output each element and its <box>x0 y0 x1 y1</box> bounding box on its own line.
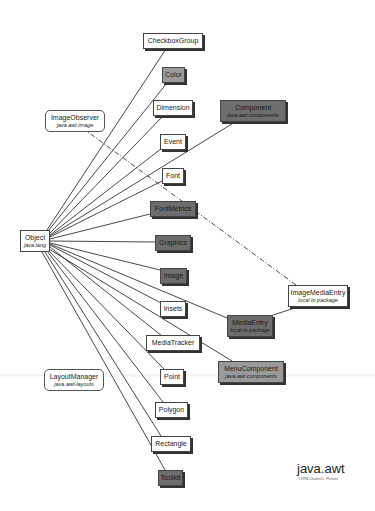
edge-object-component <box>50 122 235 236</box>
node-point[interactable]: Point <box>160 369 184 385</box>
interface-layoutmanager[interactable]: LayoutManagerjava.awt-layouts <box>44 369 104 391</box>
node-component[interactable]: Componentjava.awt.components <box>220 100 286 122</box>
edge-object-event <box>50 148 162 235</box>
node-label: Dimension <box>156 104 189 112</box>
node-mediatracker[interactable]: MediaTracker <box>146 335 200 351</box>
node-label: ImageMediaEntry <box>291 289 346 297</box>
node-label: Polygon <box>159 406 184 414</box>
interface-imageobserver[interactable]: ImageObserverjava.awt.image <box>45 110 105 132</box>
node-package: java.awt.components <box>225 373 277 379</box>
edge-object-insets <box>50 245 161 303</box>
class-hierarchy-diagram: CheckboxGroupColorDimensionComponentjava… <box>0 0 375 511</box>
node-label: Toolkit <box>161 474 181 482</box>
node-label: Color <box>165 71 182 79</box>
edge-mediaentry-imagemediaentry <box>273 307 298 315</box>
node-graphics[interactable]: Graphics <box>155 235 191 251</box>
node-label: Insets <box>164 305 183 313</box>
node-imagemediaentry[interactable]: ImageMediaEntrylocal to package <box>288 285 348 307</box>
node-polygon[interactable]: Polygon <box>155 402 188 418</box>
node-dimension[interactable]: Dimension <box>153 100 193 116</box>
diagram-title: java.awt <box>297 461 345 476</box>
node-fontmetrics[interactable]: FontMetrics <box>150 201 196 217</box>
node-package: java.lang <box>24 242 46 248</box>
edge-object-mediaentry <box>50 244 227 318</box>
node-package: java.awt.image <box>57 122 94 128</box>
node-font[interactable]: Font <box>162 168 184 184</box>
node-insets[interactable]: Insets <box>160 301 186 317</box>
edge-object-checkboxgroup <box>47 49 166 230</box>
node-label: Event <box>164 138 182 146</box>
node-package: java.awt.components <box>227 112 279 118</box>
node-mediaentry[interactable]: MediaEntrylocal to package <box>227 315 273 337</box>
node-label: Graphics <box>159 239 187 247</box>
node-label: Font <box>166 172 180 180</box>
node-label: Image <box>164 272 183 280</box>
node-label: FontMetrics <box>155 205 192 213</box>
node-label: CheckboxGroup <box>148 37 199 45</box>
edge-object-graphics <box>50 241 155 242</box>
edge-object-font <box>50 181 162 237</box>
node-toolkit[interactable]: Toolkit <box>158 470 183 486</box>
node-package: java.awt-layouts <box>54 381 93 387</box>
node-label: MediaTracker <box>152 339 195 347</box>
node-menucomponent[interactable]: MenuComponentjava.awt.components <box>218 361 284 383</box>
node-rectangle[interactable]: Rectangle <box>151 436 191 452</box>
node-label: Rectangle <box>155 440 187 448</box>
edge-layer <box>0 0 375 511</box>
node-label: ImageObserver <box>51 114 99 122</box>
node-color[interactable]: Color <box>162 67 185 83</box>
node-object-root[interactable]: Object java.lang <box>20 230 50 252</box>
edge-object-menucomponent <box>49 249 232 361</box>
node-label: MenuComponent <box>224 365 278 373</box>
node-label: LayoutManager <box>50 373 99 381</box>
node-package: local to package <box>230 327 270 333</box>
copyright-credit: ©1996 Charles L. Perkins <box>298 477 338 481</box>
node-event[interactable]: Event <box>160 134 186 150</box>
node-package: local to package <box>298 297 338 303</box>
node-label: MediaEntry <box>232 319 267 327</box>
node-image[interactable]: Image <box>160 268 187 284</box>
node-label: Point <box>164 373 180 381</box>
node-label: Component <box>235 104 271 112</box>
edge-object-image <box>50 243 160 270</box>
edge-object-rectangle <box>45 252 161 436</box>
node-label: Object <box>25 234 45 242</box>
node-checkboxgroup[interactable]: CheckboxGroup <box>143 33 203 49</box>
